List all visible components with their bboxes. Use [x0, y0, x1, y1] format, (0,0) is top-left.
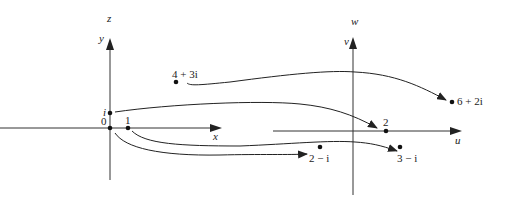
x-axis-label: x	[212, 130, 218, 142]
arrow-4-plus-3i-to-6-plus-2i	[187, 71, 446, 100]
point-1-label: 1	[125, 114, 131, 126]
point-4-plus-3i-label: 4 + 3i	[172, 68, 198, 80]
arrow-1-to-3-minus-i	[132, 131, 397, 151]
point-3-minus-i	[398, 145, 403, 150]
point-origin	[108, 126, 113, 131]
w-plane: w v u 2 6 + 2i 2 − i 3 − i	[273, 15, 483, 195]
point-4-plus-3i	[174, 80, 179, 85]
z-plane-label: z	[106, 12, 112, 24]
point-1	[126, 126, 131, 131]
point-2	[384, 129, 389, 134]
w-v-axis-arrow-icon	[349, 37, 357, 49]
u-axis-label: u	[455, 134, 461, 146]
point-6-plus-2i	[450, 100, 455, 105]
point-2-minus-i	[318, 145, 323, 150]
mapping-diagram: z y x 0 i 1 4 + 3i w v u 2 6 + 2i 2 − i …	[0, 0, 506, 207]
v-axis-label: v	[344, 35, 349, 47]
point-i	[108, 111, 113, 116]
arrow-i-to-2	[115, 102, 377, 128]
z-y-axis-arrow-icon	[106, 38, 114, 50]
point-6-plus-2i-label: 6 + 2i	[457, 95, 483, 107]
w-plane-label: w	[351, 15, 359, 27]
mapping-arrows	[115, 71, 446, 155]
y-axis-label: y	[98, 32, 104, 44]
point-2-minus-i-label: 2 − i	[309, 152, 329, 164]
point-3-minus-i-label: 3 − i	[397, 152, 417, 164]
point-2-label: 2	[383, 116, 389, 128]
point-i-label: i	[103, 106, 106, 118]
